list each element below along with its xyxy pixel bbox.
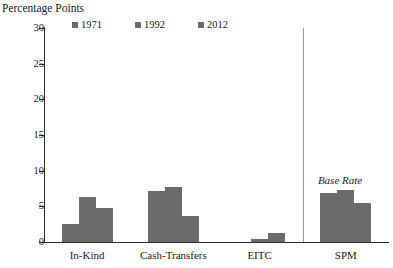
y-axis-tick-label: 25 <box>10 59 44 69</box>
chart-annotation: Base Rate <box>318 174 362 186</box>
bar <box>182 216 199 242</box>
bar <box>165 187 182 242</box>
y-axis-tick-label: 30 <box>10 23 44 33</box>
bar <box>337 190 354 242</box>
y-axis-tick-label: 10 <box>10 166 44 176</box>
x-axis-group-label: EITC <box>217 249 303 262</box>
legend-swatch-icon <box>135 22 141 28</box>
bar <box>148 191 165 242</box>
y-axis-tick-label: 0 <box>10 237 44 247</box>
bar <box>79 197 96 242</box>
y-axis-title: Percentage Points <box>2 2 84 15</box>
x-axis-group-label: Cash-Transfers <box>130 249 216 262</box>
bar <box>268 233 285 242</box>
y-axis-tick-label: 5 <box>10 201 44 211</box>
bar <box>96 208 113 242</box>
y-axis-tick-label: 15 <box>10 130 44 140</box>
y-axis-tick-label: 20 <box>10 94 44 104</box>
legend-swatch-icon <box>198 22 204 28</box>
x-axis-group-label: SPM <box>303 249 389 262</box>
x-axis-group-label: In-Kind <box>44 249 130 262</box>
group-separator-line <box>303 28 304 242</box>
x-axis-line <box>44 242 389 243</box>
legend-swatch-icon <box>72 22 78 28</box>
bar <box>251 239 268 242</box>
bar <box>354 203 371 242</box>
plot-area: Base Rate <box>44 28 389 242</box>
bar-chart: Percentage Points 051015202530 1971 1992… <box>0 0 393 268</box>
bar <box>320 193 337 242</box>
bar <box>62 224 79 242</box>
